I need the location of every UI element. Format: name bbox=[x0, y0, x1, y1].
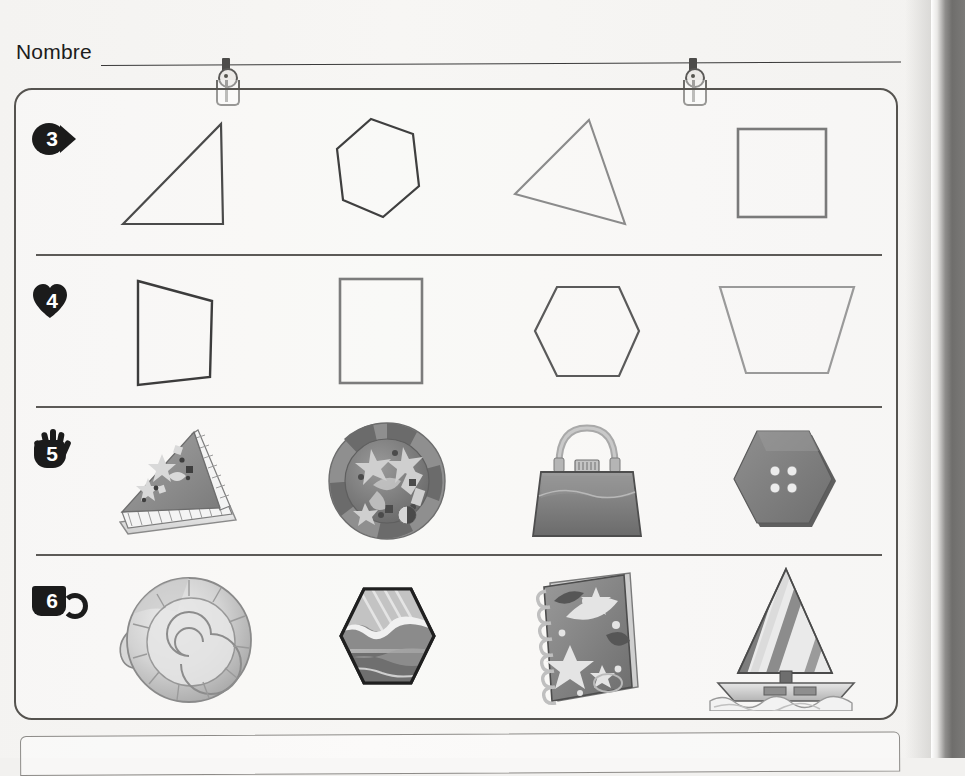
sailboat-picture bbox=[704, 561, 869, 711]
row-number: 6 bbox=[30, 578, 86, 624]
shape-cell-triangle-scalene[interactable] bbox=[487, 94, 687, 254]
picture-cell-sailboat[interactable] bbox=[687, 556, 887, 716]
cake-slice-picture bbox=[108, 416, 268, 546]
row-number: 5 bbox=[30, 426, 86, 472]
handbag-picture bbox=[519, 416, 654, 546]
hexagon-tall-shape bbox=[327, 112, 447, 237]
picture-cell-cake-slice[interactable] bbox=[88, 408, 288, 554]
picture-cell-spiral-shell[interactable] bbox=[88, 556, 288, 716]
round-plate-picture bbox=[325, 419, 450, 544]
rectangle-shape bbox=[322, 269, 452, 394]
row-marker-5: 5 bbox=[30, 426, 86, 472]
worksheet-row-4: 4 bbox=[16, 256, 900, 406]
row-number: 4 bbox=[30, 278, 86, 324]
worksheet-row-3: 3 bbox=[16, 94, 900, 254]
picture-cell-hexagon-scene[interactable] bbox=[288, 556, 488, 716]
row-4-cells bbox=[88, 256, 886, 406]
shape-cell-quadrilateral[interactable] bbox=[88, 256, 288, 406]
scan-gradient bbox=[905, 0, 931, 758]
row-6-cells bbox=[88, 556, 886, 716]
shape-cell-trapezoid[interactable] bbox=[687, 256, 887, 406]
row-marker-3: 3 bbox=[30, 116, 86, 162]
picture-cell-notebook[interactable] bbox=[487, 556, 687, 716]
worksheet-row-5: 5 bbox=[16, 408, 900, 554]
square-shape bbox=[726, 112, 846, 237]
picture-cell-round-plate[interactable] bbox=[288, 408, 488, 554]
shape-cell-triangle-right[interactable] bbox=[88, 94, 288, 254]
row-number: 3 bbox=[30, 116, 86, 162]
hexagon-scene-picture bbox=[330, 579, 445, 694]
row-5-cells bbox=[88, 408, 886, 554]
trapezoid-shape bbox=[706, 269, 866, 394]
picture-cell-handbag[interactable] bbox=[487, 408, 687, 554]
shape-cell-hexagon-wide[interactable] bbox=[487, 256, 687, 406]
shape-cell-hexagon[interactable] bbox=[288, 94, 488, 254]
heart-icon: 4 bbox=[30, 278, 86, 324]
shape-cell-rectangle[interactable] bbox=[288, 256, 488, 406]
row-3-cells bbox=[88, 94, 886, 254]
name-label: Nombre bbox=[16, 40, 92, 64]
picture-cell-hexagon-button[interactable] bbox=[687, 408, 887, 554]
worksheet-row-6: 6 bbox=[16, 556, 900, 716]
hexagon-wide-shape bbox=[517, 269, 657, 394]
spiral-shell-picture bbox=[103, 564, 273, 709]
cup-icon: 6 bbox=[30, 578, 86, 624]
triangle-right-shape bbox=[113, 112, 263, 237]
fish-icon: 3 bbox=[30, 116, 86, 162]
row-marker-4: 4 bbox=[30, 278, 86, 324]
worksheet-panel: 3 bbox=[14, 88, 898, 720]
notebook-picture bbox=[522, 561, 652, 711]
quad-irregular-shape bbox=[118, 269, 258, 394]
next-exercise-panel bbox=[20, 731, 900, 776]
name-field-row: Nombre bbox=[16, 40, 896, 70]
hand-icon: 5 bbox=[30, 426, 86, 472]
row-marker-6: 6 bbox=[30, 578, 86, 624]
shape-cell-square[interactable] bbox=[687, 94, 887, 254]
scan-edge-shadow bbox=[931, 0, 965, 758]
triangle-scalene-shape bbox=[507, 112, 667, 237]
hexagon-button-picture bbox=[724, 421, 849, 541]
